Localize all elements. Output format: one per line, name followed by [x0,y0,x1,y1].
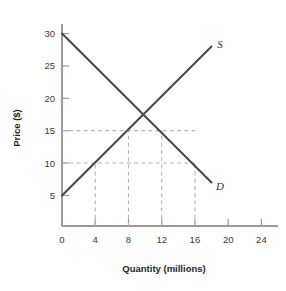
x-tick-label-20: 20 [223,234,234,245]
x-tick-label-0: 0 [59,234,64,245]
demand-curve [62,34,212,183]
x-tick-label-24: 24 [256,234,267,245]
y-tick-label-10: 10 [44,158,55,169]
chart-plot-area: 30 25 20 15 10 5 0 4 8 12 16 20 24 [0,0,286,291]
y-tick-label-25: 25 [44,60,55,71]
x-tick-label-16: 16 [190,234,201,245]
x-tick-label-4: 4 [93,234,98,245]
supply-curve-label: S [217,38,223,50]
y-axis-title: Price ($) [11,109,22,147]
supply-demand-chart: 30 25 20 15 10 5 0 4 8 12 16 20 24 [0,0,286,291]
y-tick-label-5: 5 [50,190,55,201]
x-axis-title: Quantity (millions) [122,263,205,274]
y-tick-label-30: 30 [44,28,55,39]
demand-curve-label: D [215,180,224,192]
x-tick-label-8: 8 [126,234,131,245]
y-tick-label-20: 20 [44,93,55,104]
x-tick-label-12: 12 [156,234,167,245]
supply-curve [62,47,212,196]
y-tick-label-15: 15 [44,125,55,136]
